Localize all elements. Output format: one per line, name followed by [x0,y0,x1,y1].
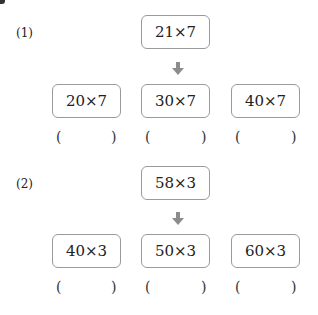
problem-label: (2) [16,177,33,191]
option-box-3[interactable]: 40×7 [231,84,300,118]
answer-open-paren: ( [235,129,240,145]
answer-close-paren: ) [291,279,296,295]
answer-close-paren: ) [201,129,206,145]
answer-close-paren: ) [291,129,296,145]
arrow-down-icon [172,212,184,225]
option-box-1[interactable]: 40×3 [52,234,121,268]
answer-close-paren: ) [111,279,116,295]
option-box-3[interactable]: 60×3 [231,234,300,268]
option-box-2[interactable]: 50×3 [141,234,210,268]
answer-open-paren: ( [56,129,61,145]
answer-open-paren: ( [56,279,61,295]
answer-open-paren: ( [235,279,240,295]
problem-label: (1) [16,26,33,40]
option-box-2[interactable]: 30×7 [141,84,210,118]
answer-open-paren: ( [145,129,150,145]
source-expression-box: 21×7 [141,15,210,49]
option-box-1[interactable]: 20×7 [52,84,121,118]
arrow-down-icon [172,62,184,75]
corner-mark [0,0,5,4]
source-expression-box: 58×3 [141,166,210,200]
answer-close-paren: ) [111,129,116,145]
answer-open-paren: ( [145,279,150,295]
answer-close-paren: ) [201,279,206,295]
